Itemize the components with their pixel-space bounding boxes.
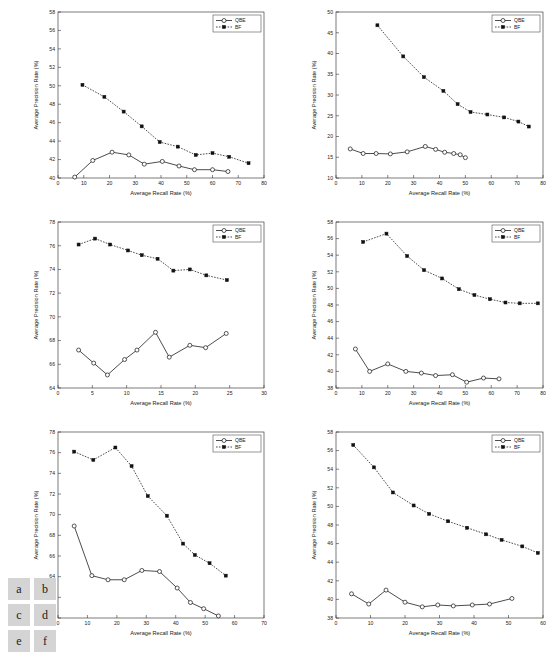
chart-svg-c: 0510152025306466687072747678Average Reca… <box>0 210 278 420</box>
data-point-bf <box>77 243 80 246</box>
x-tick-label: 0 <box>57 620 60 626</box>
data-point-qbe <box>470 603 474 607</box>
chart-panel-a: 0102030405060708040424446485052545658Ave… <box>0 0 278 210</box>
x-tick-label: 60 <box>540 620 546 626</box>
data-point-bf <box>422 76 425 79</box>
data-point-bf <box>422 269 425 272</box>
data-point-qbe <box>158 570 162 574</box>
y-tick-label: 52 <box>327 485 333 491</box>
data-point-bf <box>488 298 491 301</box>
legend-label-bf: BF <box>235 234 241 240</box>
y-tick-label: 74 <box>49 266 55 272</box>
data-point-qbe <box>481 376 485 380</box>
data-point-bf <box>225 279 228 282</box>
legend-marker-qbe <box>222 439 226 443</box>
x-tick-label: 40 <box>437 390 443 396</box>
data-point-bf <box>391 491 394 494</box>
data-point-qbe <box>177 164 181 168</box>
y-tick-label: 40 <box>327 368 333 374</box>
y-axis-title: Average Precision Rate (%) <box>33 270 39 339</box>
series-line-qbe <box>355 349 499 382</box>
legend-label-bf: BF <box>514 444 520 450</box>
chart-panel-d: 010203040506070803840424446485052545658A… <box>278 210 557 420</box>
series-line-bf <box>363 234 538 304</box>
data-point-qbe <box>211 168 215 172</box>
y-tick-label: 48 <box>49 101 55 107</box>
data-point-qbe <box>77 348 81 352</box>
data-point-bf <box>208 562 211 565</box>
data-point-qbe <box>202 607 206 611</box>
legend-label-qbe: QBE <box>514 227 525 233</box>
x-tick-label: 40 <box>173 620 179 626</box>
data-point-qbe <box>72 524 76 528</box>
x-axis-title: Average Recall Rate (%) <box>409 400 471 406</box>
y-tick-label: 74 <box>49 470 55 476</box>
x-tick-label: 20 <box>107 180 113 186</box>
y-tick-label: 52 <box>327 269 333 275</box>
x-tick-label: 80 <box>540 390 546 396</box>
data-point-qbe <box>142 162 146 166</box>
data-point-bf <box>130 465 133 468</box>
data-point-bf <box>457 288 460 291</box>
series-line-bf <box>82 85 248 163</box>
data-point-qbe <box>443 150 447 154</box>
y-tick-label: 54 <box>327 466 333 472</box>
data-point-qbe <box>434 147 438 151</box>
series-line-bf <box>74 448 226 576</box>
data-point-qbe <box>423 144 427 148</box>
data-point-bf <box>447 520 450 523</box>
data-point-qbe <box>361 152 365 156</box>
x-tick-label: 0 <box>335 180 338 186</box>
legend-label-bf: BF <box>514 234 520 240</box>
y-tick-label: 56 <box>327 447 333 453</box>
x-tick-label: 30 <box>143 620 149 626</box>
data-point-qbe <box>122 578 126 582</box>
y-tick-label: 64 <box>49 385 55 391</box>
y-tick-label: 56 <box>49 27 55 33</box>
y-tick-label: 50 <box>327 9 333 15</box>
y-tick-label: 70 <box>49 314 55 320</box>
data-point-bf <box>485 533 488 536</box>
data-point-qbe <box>488 602 492 606</box>
data-point-qbe <box>497 377 501 381</box>
y-tick-label: 58 <box>49 9 55 15</box>
data-point-bf <box>402 55 405 58</box>
x-tick-label: 60 <box>210 180 216 186</box>
data-point-bf <box>466 526 469 529</box>
data-point-bf <box>94 237 97 240</box>
x-axis-title: Average Recall Rate (%) <box>409 630 471 636</box>
y-tick-label: 66 <box>49 553 55 559</box>
panel-key-b: b <box>34 578 56 600</box>
y-tick-label: 10 <box>327 175 333 181</box>
data-point-qbe <box>175 586 179 590</box>
panel-key-c: c <box>8 604 30 626</box>
data-point-bf <box>182 542 185 545</box>
data-point-bf <box>211 152 214 155</box>
legend-marker-qbe <box>501 439 505 443</box>
series-line-qbe <box>75 152 228 177</box>
data-point-bf <box>165 514 168 517</box>
data-point-qbe <box>452 152 456 156</box>
x-tick-label: 20 <box>385 180 391 186</box>
data-point-qbe <box>451 604 455 608</box>
y-tick-label: 40 <box>327 50 333 56</box>
data-point-bf <box>247 162 250 165</box>
y-tick-label: 72 <box>49 290 55 296</box>
data-point-bf <box>194 153 197 156</box>
y-tick-label: 78 <box>49 219 55 225</box>
data-point-bf <box>114 446 117 449</box>
x-axis-title: Average Recall Rate (%) <box>130 190 192 196</box>
data-point-bf <box>193 553 196 556</box>
data-point-bf <box>385 232 388 235</box>
x-tick-label: 20 <box>114 620 120 626</box>
data-point-bf <box>406 255 409 258</box>
x-tick-label: 0 <box>57 180 60 186</box>
data-point-qbe <box>436 603 440 607</box>
y-tick-label: 44 <box>49 138 55 144</box>
data-point-qbe <box>204 346 208 350</box>
x-tick-label: 10 <box>368 620 374 626</box>
data-point-qbe <box>374 152 378 156</box>
data-point-qbe <box>154 330 158 334</box>
data-point-qbe <box>160 159 164 163</box>
series-line-bf <box>353 445 538 553</box>
